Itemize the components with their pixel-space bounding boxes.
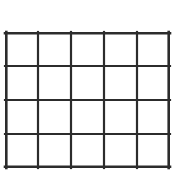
grid-figure xyxy=(5,32,170,168)
grid-cell[interactable] xyxy=(71,66,104,100)
grid-cell[interactable] xyxy=(104,100,137,134)
grid-cell[interactable] xyxy=(38,66,71,100)
grid-cell[interactable] xyxy=(38,134,71,168)
grid-cell[interactable] xyxy=(71,100,104,134)
grid-cell[interactable] xyxy=(38,100,71,134)
grid-svg xyxy=(5,32,170,168)
grid-cell[interactable] xyxy=(137,66,170,100)
grid-cell[interactable] xyxy=(38,32,71,66)
grid-cell[interactable] xyxy=(104,134,137,168)
grid-cell[interactable] xyxy=(137,100,170,134)
grid-cell[interactable] xyxy=(5,134,38,168)
grid-cell[interactable] xyxy=(104,66,137,100)
grid-cell[interactable] xyxy=(104,32,137,66)
grid-cell[interactable] xyxy=(5,32,38,66)
grid-cell[interactable] xyxy=(71,32,104,66)
grid-cell[interactable] xyxy=(137,32,170,66)
grid-cell[interactable] xyxy=(71,134,104,168)
grid-cell[interactable] xyxy=(5,100,38,134)
grid-cell[interactable] xyxy=(137,134,170,168)
image-canvas xyxy=(0,0,183,171)
grid-cell[interactable] xyxy=(5,66,38,100)
